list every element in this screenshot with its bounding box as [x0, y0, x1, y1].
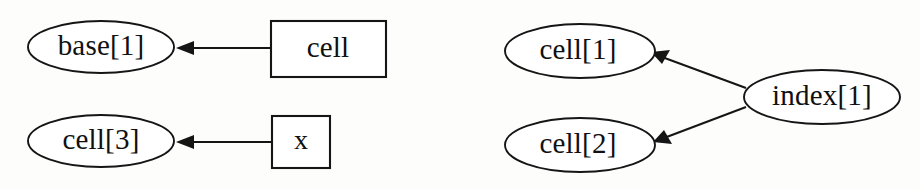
node-label-cell: cell	[307, 31, 350, 63]
edge-index1-to-cell2	[653, 107, 746, 144]
node-index1[interactable]: index[1]	[744, 70, 900, 124]
node-label-x: x	[294, 124, 308, 155]
arrowhead-x-to-cell3	[176, 135, 194, 149]
node-cell2[interactable]: cell[2]	[505, 118, 655, 172]
node-label-cell3: cell[3]	[62, 123, 139, 155]
node-label-cell1: cell[1]	[539, 33, 616, 65]
node-cell1[interactable]: cell[1]	[505, 24, 655, 78]
node-label-index1: index[1]	[772, 79, 872, 111]
edge-x-to-cell3	[176, 135, 272, 149]
node-cell3[interactable]: cell[3]	[28, 115, 174, 167]
node-label-base1: base[1]	[58, 29, 145, 61]
node-base1[interactable]: base[1]	[28, 21, 174, 73]
diagram-canvas: base[1] cell cell[3] x	[0, 0, 920, 189]
points-to-graph: base[1] cell cell[3] x	[0, 0, 920, 189]
edge-line-index1-to-cell2	[664, 107, 746, 138]
edge-cell-to-base1	[176, 41, 271, 55]
edge-line-index1-to-cell1	[662, 57, 746, 88]
node-x[interactable]: x	[272, 116, 330, 168]
edge-index1-to-cell1	[651, 50, 746, 88]
node-cell[interactable]: cell	[271, 21, 386, 77]
node-label-cell2: cell[2]	[539, 127, 616, 159]
arrowhead-cell-to-base1	[176, 41, 194, 55]
